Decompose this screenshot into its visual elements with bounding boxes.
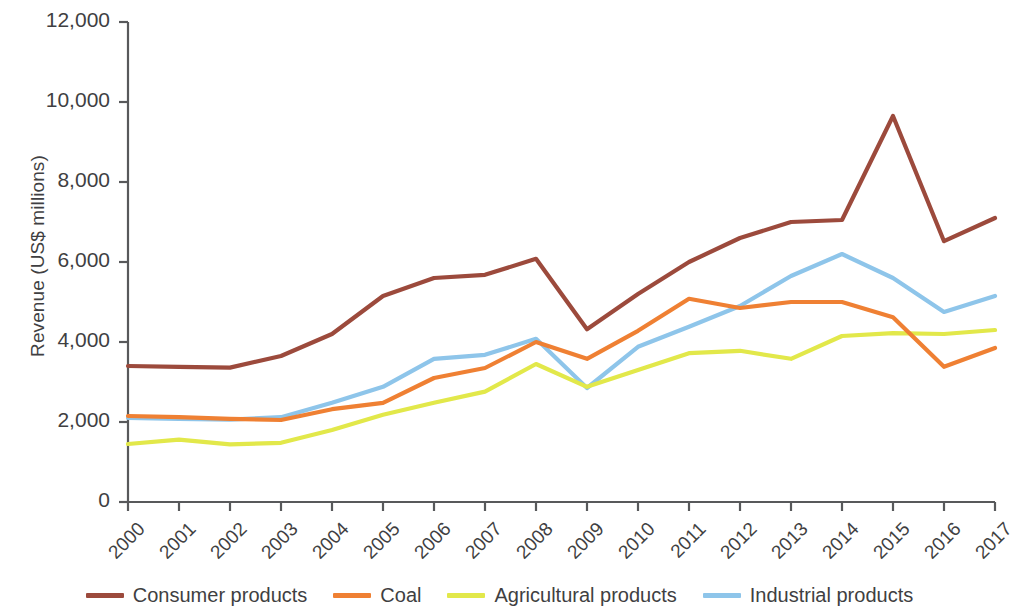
legend-swatch-coal (333, 593, 371, 598)
legend-label: Coal (380, 584, 421, 607)
legend-item[interactable]: Agricultural products (447, 584, 676, 607)
legend-swatch-consumer-products (86, 593, 124, 598)
legend-label: Agricultural products (494, 584, 676, 607)
legend-item[interactable]: Industrial products (703, 584, 913, 607)
series-line-agricultural-products (128, 330, 995, 444)
legend-item[interactable]: Consumer products (86, 584, 308, 607)
legend-swatch-agricultural-products (447, 593, 485, 598)
series-line-consumer-products (128, 116, 995, 368)
legend-label: Industrial products (750, 584, 913, 607)
chart-legend: Consumer productsCoalAgricultural produc… (0, 584, 999, 607)
legend-swatch-industrial-products (703, 593, 741, 598)
legend-label: Consumer products (133, 584, 308, 607)
legend-item[interactable]: Coal (333, 584, 421, 607)
